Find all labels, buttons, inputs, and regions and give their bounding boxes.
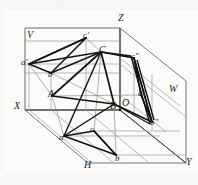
label-point-c-double-prime: c": [131, 52, 139, 61]
profile-extra-chords: [101, 52, 154, 124]
label-point-C: C: [99, 45, 106, 54]
label-point-B: B: [110, 101, 116, 110]
w-plane-outline: [120, 28, 186, 163]
label-origin-o: O: [122, 98, 129, 107]
label-point-b-double-prime: b": [150, 118, 158, 127]
projection-figure: V H W Z X Y O A B C a' b' c' a b c a" b"…: [0, 0, 198, 185]
label-point-c: c: [90, 125, 94, 134]
label-axis-z: Z: [118, 13, 124, 22]
label-point-a: a: [59, 133, 64, 142]
label-point-b-prime: b': [48, 70, 54, 79]
label-point-c-prime: c': [83, 31, 89, 40]
label-axis-y: Y: [186, 157, 192, 166]
label-point-a-double-prime: a": [138, 89, 146, 98]
label-point-a-prime: a': [21, 58, 27, 67]
label-plane-h: H: [84, 160, 91, 169]
label-axis-x: X: [14, 101, 20, 110]
label-point-A: A: [48, 89, 54, 98]
h-plane-construction-lines: [29, 110, 186, 163]
scan-artifact-top: · · · · · · ·· · · ·: [8, 2, 91, 9]
label-point-b: b: [115, 154, 120, 163]
label-plane-v: V: [27, 30, 33, 39]
label-plane-w: W: [169, 84, 177, 93]
scan-artifact-bottom: · · · · · · ·: [10, 174, 64, 181]
